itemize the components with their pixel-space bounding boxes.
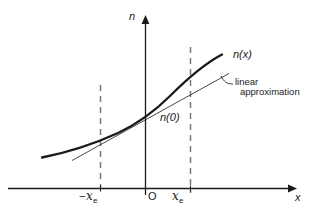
- tick-symbol-x: x: [172, 189, 179, 203]
- nx-curve: [42, 55, 222, 158]
- y-axis-arrowhead: [142, 15, 150, 24]
- minus-sign: −: [79, 190, 85, 202]
- y-axis-label: n: [129, 11, 135, 23]
- tick-subscript-e: e: [179, 196, 183, 205]
- linear-approximation-label: linearapproximation: [235, 77, 300, 97]
- linear-approximation-line: [72, 74, 229, 161]
- curve-label: n(x): [233, 49, 252, 61]
- x-axis-label: x: [295, 192, 301, 204]
- tick-symbol-x: x: [86, 189, 93, 203]
- figure-container: n x O −xe xe n(x) n(0) linearapproximati…: [0, 0, 309, 215]
- tick-label-negative-xe: −xe: [79, 190, 97, 205]
- linear-approximation-label-line2: approximation: [240, 87, 300, 97]
- y-axis: [142, 15, 150, 195]
- plot-canvas: [0, 0, 309, 215]
- origin-label: O: [148, 191, 157, 203]
- tick-label-positive-xe: xe: [172, 190, 183, 205]
- origin-value-label: n(0): [160, 112, 180, 124]
- tick-subscript-e: e: [93, 196, 97, 205]
